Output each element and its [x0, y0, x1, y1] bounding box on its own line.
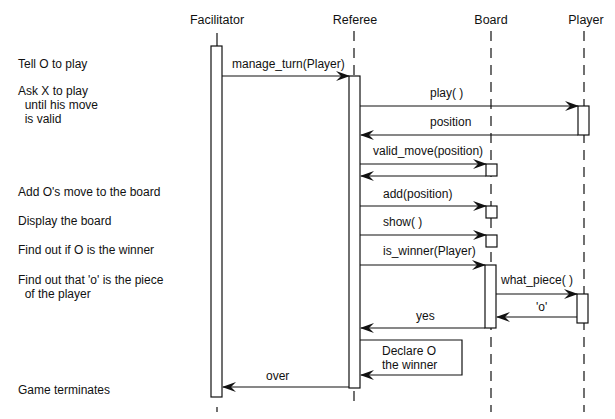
msg-show: show( ) [383, 215, 422, 229]
msg-what-piece: what_piece( ) [501, 273, 573, 287]
msg-yes: yes [416, 309, 435, 323]
board-activation-is-winner [485, 265, 496, 328]
step-ask-x-to-play: Ask X to play until his move is valid [18, 84, 98, 126]
step-tell-o-to-play: Tell O to play [18, 57, 87, 71]
msg-position: position [430, 115, 471, 129]
board-activation-show [486, 235, 497, 247]
actor-facilitator: Facilitator [190, 13, 244, 27]
msg-manage-turn: manage_turn(Player) [232, 57, 345, 71]
player-activation-2 [577, 294, 588, 323]
step-game-terminates: Game terminates [18, 383, 110, 397]
board-activation-valid-move [486, 164, 497, 176]
facilitator-activation [211, 46, 222, 397]
msg-declare-winner: Declare O the winner [382, 344, 437, 372]
actor-board: Board [474, 13, 507, 27]
referee-activation [349, 76, 360, 388]
step-display-board: Display the board [18, 214, 111, 228]
msg-valid-move: valid_move(position) [373, 144, 483, 158]
msg-o: 'o' [536, 300, 547, 314]
msg-play: play( ) [430, 86, 463, 100]
player-activation-1 [578, 106, 589, 135]
msg-over: over [266, 369, 289, 383]
step-add-move: Add O's move to the board [18, 185, 160, 199]
step-find-piece: Find out that 'o' is the piece of the pl… [18, 273, 163, 301]
actor-referee: Referee [333, 13, 377, 27]
board-activation-add [486, 206, 497, 218]
step-find-winner: Find out if O is the winner [18, 243, 154, 257]
msg-add: add(position) [383, 187, 452, 201]
actor-player: Player [568, 13, 603, 27]
msg-is-winner: is_winner(Player) [383, 244, 476, 258]
